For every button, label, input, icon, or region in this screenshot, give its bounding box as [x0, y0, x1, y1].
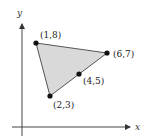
point-6-7 — [104, 50, 109, 55]
label-1-8: (1,8) — [40, 30, 61, 40]
point-4-5 — [76, 71, 81, 76]
label-4-5: (4,5) — [83, 76, 104, 86]
point-1-8 — [33, 40, 38, 45]
x-axis-label: x — [135, 122, 140, 132]
y-axis-label: y — [16, 8, 23, 18]
point-2-3 — [47, 93, 52, 98]
label-2-3: (2,3) — [53, 100, 74, 110]
shaded-triangle — [36, 43, 107, 96]
coordinate-diagram: x y (1,8) (6,7) (4,5) (2,3) — [0, 0, 145, 139]
label-6-7: (6,7) — [113, 49, 134, 59]
